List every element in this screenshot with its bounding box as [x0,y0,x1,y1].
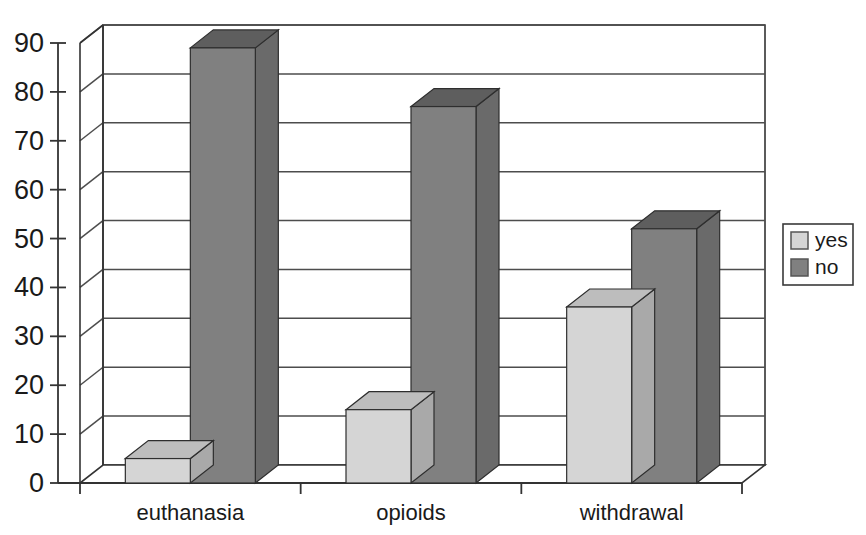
y-tick-label: 30 [14,321,44,351]
legend-swatch-no [791,259,808,276]
bar-withdrawal-yes [567,289,655,483]
y-tick-label: 60 [14,175,44,205]
chart-root: 0102030405060708090 euthanasiaopioidswit… [0,0,866,535]
legend-label-no: no [815,255,838,278]
y-tick-label: 90 [14,28,44,58]
y-tick-label: 20 [14,370,44,400]
x-axis-tick-marks [80,483,742,494]
legend: yes no [783,224,853,285]
x-category-label-opioids: opioids [376,500,446,525]
y-tick-label: 40 [14,272,44,302]
legend-label-yes: yes [815,228,848,251]
y-tick-label: 80 [14,77,44,107]
y-tick-label: 50 [14,224,44,254]
legend-swatch-yes [791,232,808,249]
bar-euthanasia-no [190,30,278,483]
bar-chart-3d: 0102030405060708090 euthanasiaopioidswit… [0,0,866,535]
x-category-label-euthanasia: euthanasia [137,500,245,525]
y-tick-label: 0 [29,468,44,498]
y-axis-tick-labels: 0102030405060708090 [14,28,44,498]
x-category-label-withdrawal: withdrawal [579,500,684,525]
y-tick-label: 70 [14,126,44,156]
x-axis-category-labels: euthanasiaopioidswithdrawal [137,500,684,525]
y-tick-label: 10 [14,419,44,449]
bar-opioids-yes [346,392,434,483]
